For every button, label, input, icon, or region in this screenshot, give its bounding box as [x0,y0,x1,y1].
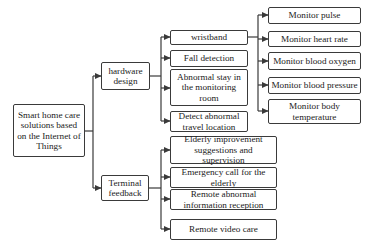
node-monitor-blood-oxygen: Monitor blood oxygen [268,52,361,70]
root-node: Smart home care solutions based on the I… [13,104,85,157]
node-elderly-improvement: Elderly improvement suggestions and supe… [170,136,277,164]
node-abnormal-stay: Abnormal stay in the monitoring room [170,69,248,106]
node-monitor-blood-pressure: Monitor blood pressure [268,77,361,94]
node-remote-abnormal-info: Remote abnormal information reception [170,189,277,210]
branch-hardware-design: hardware design [101,62,150,90]
node-fall-detection: Fall detection [170,50,248,67]
node-monitor-pulse: Monitor pulse [268,7,361,24]
node-monitor-heart-rate: Monitor heart rate [268,31,361,47]
node-wristband: wristband [170,30,248,45]
node-monitor-body-temperature: Monitor body temperature [268,99,361,124]
node-detect-abnormal-travel: Detect abnormal travel location [170,111,248,132]
node-emergency-call: Emergency call for the elderly [170,167,277,188]
branch-terminal-feedback: Terminal feedback [101,175,149,201]
node-remote-video-care: Remote video care [170,219,277,240]
